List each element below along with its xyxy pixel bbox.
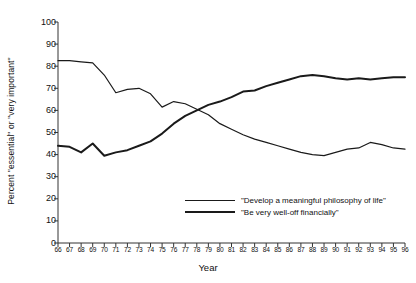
y-axis-ticks (54, 22, 58, 243)
chart-root: Percent "essential" or "very important" … (0, 0, 416, 283)
plot-area (0, 0, 416, 283)
legend: "Develop a meaningful philosophy of life… (185, 194, 386, 218)
series-line-0 (58, 61, 405, 156)
series-line-1 (58, 75, 405, 156)
legend-label: "Be very well-off financially" (241, 208, 339, 217)
legend-label: "Develop a meaningful philosophy of life… (241, 196, 386, 205)
legend-item: "Be very well-off financially" (185, 206, 386, 218)
x-axis-ticks (58, 243, 405, 247)
legend-item: "Develop a meaningful philosophy of life… (185, 194, 386, 206)
legend-line-swatch (185, 200, 235, 201)
legend-line-swatch (185, 211, 235, 213)
